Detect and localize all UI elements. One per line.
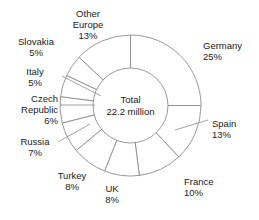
slice-label-russia-name: Russia [12,136,58,147]
slice-label-france-name: France [184,176,214,187]
slice-label-czech-republic: Czech Republic 6% [0,93,58,126]
slice-label-slovakia: Slovakia 5% [7,36,65,58]
slice-label-uk-value: 8% [96,194,128,205]
slice-label-italy-name: Italy [14,66,56,77]
slice-label-spain-value: 13% [212,129,236,140]
slice-label-other-europe: Other Europe 13% [62,8,114,41]
slice-label-germany-value: 25% [203,51,242,62]
slice-label-turkey-value: 8% [49,181,95,192]
slice-label-czech-republic-name-2: Republic [0,104,58,115]
slice-label-france-value: 10% [184,187,214,198]
slice-label-spain-name: Spain [212,118,236,129]
slice-label-germany-name: Germany [203,40,242,51]
slice-label-russia-value: 7% [12,147,58,158]
slice-label-other-europe-name-1: Other [62,8,114,19]
slice-label-slovakia-name: Slovakia [7,36,65,47]
slice-label-czech-republic-name-1: Czech [0,93,58,104]
slice-label-russia: Russia 7% [12,136,58,158]
slice-label-uk: UK 8% [96,183,128,205]
slice-label-slovakia-value: 5% [7,47,65,58]
slice-label-turkey-name: Turkey [49,170,95,181]
center-total-title: Total [120,94,140,105]
slice-label-italy-value: 5% [14,77,56,88]
center-total-label: Total 22.2 million [95,94,166,117]
slice-label-turkey: Turkey 8% [49,170,95,192]
slice-label-other-europe-name-2: Europe [62,19,114,30]
slice-label-other-europe-value: 13% [62,30,114,41]
donut-chart: Total 22.2 million Germany 25% Spain 13%… [0,0,259,220]
slice-label-france: France 10% [184,176,214,198]
center-total-value: 22.2 million [106,106,154,117]
slice-label-czech-republic-value: 6% [0,115,58,126]
slice-label-germany: Germany 25% [203,40,242,62]
slice-label-uk-name: UK [96,183,128,194]
slice-label-italy: Italy 5% [14,66,56,88]
slice-label-spain: Spain 13% [212,118,236,140]
